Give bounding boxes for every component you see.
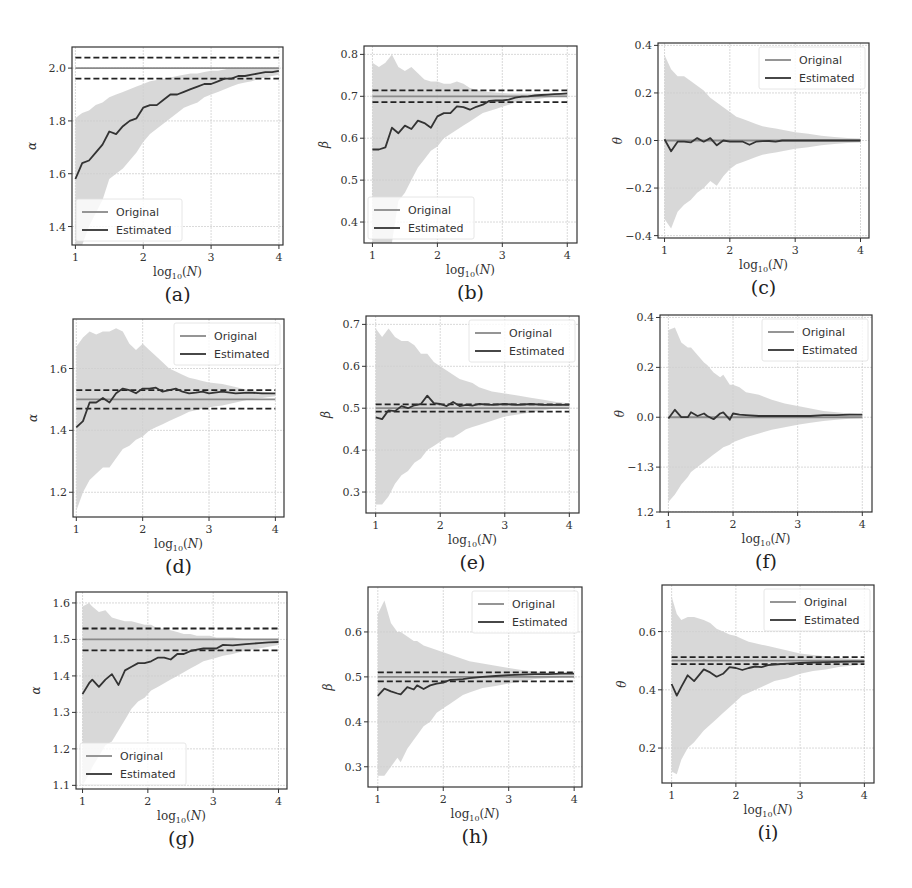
y-tick-label: 0.6: [639, 626, 657, 639]
subplot-caption-i: (i): [738, 821, 798, 843]
y-axis-label: θ: [615, 680, 629, 688]
x-tick-label: 1: [668, 789, 675, 802]
x-axis-label: log10(N): [744, 803, 793, 819]
legend-estimated-label: Estimated: [804, 614, 860, 627]
x-tick-label: 3: [797, 789, 804, 802]
legend: OriginalEstimated: [764, 589, 870, 631]
subplot-i: 12340.20.40.6log10(N)θOriginalEstimated: [0, 0, 912, 888]
x-tick-label: 4: [861, 789, 868, 802]
figure-grid: 12341.41.61.82.0log10(N)αOriginalEstimat…: [0, 0, 912, 888]
x-tick-label: 2: [732, 789, 739, 802]
legend-original-label: Original: [804, 596, 847, 609]
y-tick-label: 0.4: [639, 684, 657, 697]
y-tick-label: 0.2: [639, 742, 657, 755]
